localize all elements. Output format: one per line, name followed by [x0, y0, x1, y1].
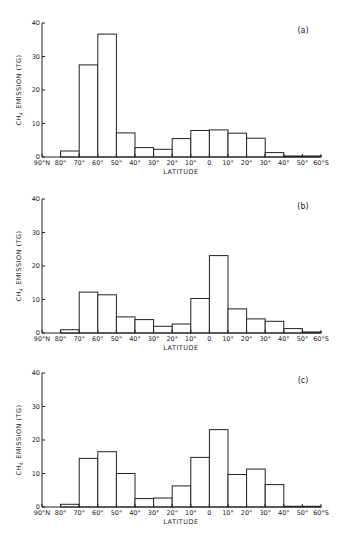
x-tick-label: 90°N [34, 335, 51, 343]
histogram-bar [154, 498, 173, 507]
x-tick-label: 50° [297, 335, 309, 343]
histogram-bar [284, 329, 303, 333]
histogram-bar [116, 317, 135, 333]
x-tick-label: 60° [92, 509, 104, 517]
chart-panel-b: 01020304090°N80°70°60°50°40°30°20°10°010… [0, 176, 353, 358]
y-axis-label: CH4 EMISSION (TG) [15, 230, 24, 301]
x-tick-label: 0 [207, 159, 211, 167]
x-tick-label: 20° [241, 509, 253, 517]
histogram-bar [191, 131, 210, 158]
histogram-bar [228, 475, 247, 508]
x-tick-label: 30° [259, 159, 271, 167]
x-tick-label: 50° [111, 335, 123, 343]
histogram-bar [247, 319, 266, 333]
y-tick-label: 10 [32, 296, 40, 304]
svg-text:CH4 EMISSION (TG): CH4 EMISSION (TG) [15, 230, 24, 301]
y-axis-label: CH4 EMISSION (TG) [15, 404, 24, 475]
x-tick-label: 50° [111, 159, 123, 167]
histogram-bar [265, 153, 284, 157]
x-tick-label: 30° [148, 509, 160, 517]
histogram-bar [172, 324, 191, 333]
y-tick-label: 10 [32, 120, 40, 128]
x-tick-label: 30° [259, 509, 271, 517]
x-tick-label: 50° [297, 159, 309, 167]
chart-panel-a: 01020304090°N80°70°60°50°40°30°20°10°010… [0, 0, 353, 182]
x-tick-label: 40° [129, 509, 141, 517]
x-tick-label: 40° [278, 159, 290, 167]
histogram-bar [247, 138, 266, 157]
histogram-bar [79, 458, 98, 507]
histogram-bar [79, 65, 98, 157]
histogram-b: 01020304090°N80°70°60°50°40°30°20°10°010… [0, 176, 353, 358]
histogram-bar [191, 299, 210, 334]
histogram-bar [265, 321, 284, 333]
panel-label: (c) [298, 376, 309, 385]
panel-label: (b) [297, 202, 308, 211]
x-tick-label: 90°N [34, 159, 51, 167]
histogram-bar [116, 133, 135, 157]
y-tick-label: 40 [32, 369, 40, 377]
x-axis-label: LATITUDE [163, 168, 198, 176]
histogram-bar [172, 486, 191, 507]
x-tick-label: 70° [73, 509, 85, 517]
x-tick-label: 20° [166, 335, 178, 343]
y-tick-label: 30 [32, 53, 40, 61]
histogram-bar [228, 133, 247, 157]
y-tick-label: 40 [32, 19, 40, 27]
histogram-bar [79, 292, 98, 333]
y-tick-label: 20 [32, 262, 40, 270]
x-tick-label: 50° [111, 509, 123, 517]
y-tick-label: 30 [32, 403, 40, 411]
histogram-bar [154, 149, 173, 157]
y-tick-label: 10 [32, 470, 40, 478]
histogram-a: 01020304090°N80°70°60°50°40°30°20°10°010… [0, 0, 353, 182]
x-tick-label: 30° [148, 335, 160, 343]
histogram-bar [172, 139, 191, 157]
x-tick-label: 10° [185, 159, 197, 167]
x-tick-label: 60° [92, 335, 104, 343]
histogram-bar [98, 452, 117, 507]
x-tick-label: 80° [55, 335, 67, 343]
x-tick-label: 40° [278, 335, 290, 343]
histogram-bar [247, 469, 266, 507]
x-tick-label: 80° [55, 509, 67, 517]
x-tick-label: 10° [185, 335, 197, 343]
x-tick-label: 60°S [313, 159, 329, 167]
x-tick-label: 10° [222, 335, 234, 343]
x-tick-label: 10° [222, 159, 234, 167]
x-tick-label: 40° [278, 509, 290, 517]
x-tick-label: 20° [241, 159, 253, 167]
histogram-bar [265, 485, 284, 507]
x-tick-label: 20° [166, 509, 178, 517]
chart-panel-c: 01020304090°N80°70°60°50°40°30°20°10°010… [0, 350, 353, 532]
histogram-bar [209, 130, 228, 157]
x-tick-label: 40° [129, 159, 141, 167]
panel-label: (a) [297, 26, 308, 35]
x-tick-label: 20° [241, 335, 253, 343]
histogram-bar [135, 148, 154, 157]
x-tick-label: 10° [222, 509, 234, 517]
x-tick-label: 70° [73, 159, 85, 167]
histogram-bar [98, 34, 117, 157]
x-tick-label: 60°S [313, 335, 329, 343]
histogram-bar [228, 309, 247, 333]
histogram-bar [135, 320, 154, 333]
y-tick-label: 40 [32, 195, 40, 203]
histogram-bar [135, 499, 154, 507]
x-tick-label: 50° [297, 509, 309, 517]
svg-text:CH4 EMISSION (TG): CH4 EMISSION (TG) [15, 54, 24, 125]
histogram-c: 01020304090°N80°70°60°50°40°30°20°10°010… [0, 350, 353, 532]
y-tick-label: 20 [32, 436, 40, 444]
y-axis-label: CH4 EMISSION (TG) [15, 54, 24, 125]
x-tick-label: 90°N [34, 509, 51, 517]
y-tick-label: 20 [32, 86, 40, 94]
histogram-bar [154, 326, 173, 333]
histogram-bar [116, 474, 135, 508]
x-tick-label: 70° [73, 335, 85, 343]
histogram-bar [191, 457, 210, 507]
y-tick-label: 30 [32, 229, 40, 237]
x-tick-label: 80° [55, 159, 67, 167]
x-tick-label: 10° [185, 509, 197, 517]
x-tick-label: 30° [259, 335, 271, 343]
x-tick-label: 40° [129, 335, 141, 343]
